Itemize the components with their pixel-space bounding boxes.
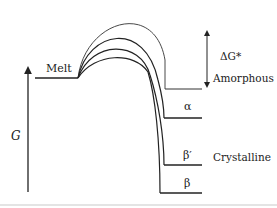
- beta-label: β: [184, 177, 190, 190]
- free-energy-diagram: G Melt α β′ β Crystalline ΔG* Amorphous: [0, 0, 277, 208]
- curve-beta-prime: [78, 49, 164, 165]
- crystalline-label: Crystalline: [213, 151, 271, 163]
- curve-beta: [78, 58, 160, 193]
- curve-amorphous: [78, 24, 165, 89]
- amorphous-label: Amorphous: [212, 72, 274, 84]
- g-axis-label: G: [11, 129, 21, 143]
- melt-label: Melt: [46, 62, 72, 75]
- alpha-label: α: [184, 100, 192, 113]
- delta-g-label: ΔG*: [220, 50, 242, 62]
- beta-prime-label: β′: [183, 149, 192, 162]
